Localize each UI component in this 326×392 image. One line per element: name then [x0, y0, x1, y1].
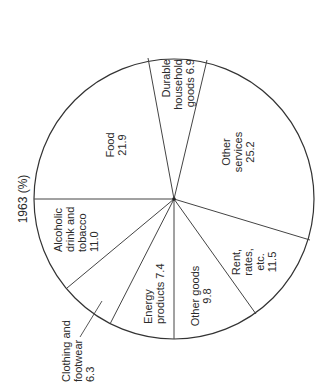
- svg-text:footwear: footwear: [72, 339, 84, 382]
- svg-text:Rent,: Rent,: [230, 249, 242, 275]
- svg-text:9.8: 9.8: [201, 288, 213, 303]
- svg-text:etc.: etc.: [254, 253, 266, 271]
- svg-text:Clothing and: Clothing and: [60, 320, 72, 382]
- svg-text:products 7.4: products 7.4: [154, 263, 166, 324]
- svg-text:6.3: 6.3: [84, 367, 96, 382]
- svg-text:Alcoholic: Alcoholic: [52, 207, 64, 252]
- svg-text:household: household: [172, 59, 184, 110]
- svg-text:Other: Other: [220, 138, 232, 166]
- svg-text:rates,: rates,: [242, 248, 254, 276]
- svg-text:21.9: 21.9: [116, 134, 128, 155]
- pie-center: [172, 197, 176, 201]
- svg-text:11.5: 11.5: [266, 252, 278, 273]
- svg-text:tobacco: tobacco: [76, 213, 88, 252]
- svg-text:Other goods: Other goods: [189, 265, 201, 326]
- svg-text:Food: Food: [104, 132, 116, 157]
- svg-text:11.0: 11.0: [88, 231, 100, 252]
- chart-title: 1963 (%): [16, 175, 30, 224]
- label-food: Food 21.9: [104, 132, 128, 157]
- pie-chart: 1963 (%) Food 21.9 Durable household goo…: [0, 0, 326, 392]
- svg-text:25.2: 25.2: [244, 141, 256, 162]
- svg-text:services: services: [232, 131, 244, 172]
- svg-text:goods 6.9: goods 6.9: [184, 59, 196, 107]
- svg-text:drink and: drink and: [64, 207, 76, 252]
- label-clothing-footwear: Clothing and footwear 6.3: [60, 320, 96, 382]
- svg-text:Durable: Durable: [160, 59, 172, 98]
- svg-text:Energy: Energy: [142, 289, 154, 324]
